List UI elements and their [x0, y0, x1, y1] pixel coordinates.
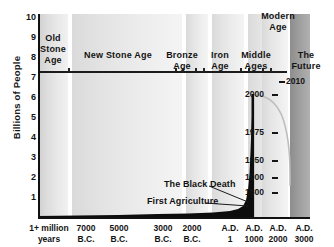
- era-label-line1: Modern: [261, 11, 295, 21]
- y-tick-1: 1: [22, 193, 36, 202]
- curve-fill: [38, 100, 254, 217]
- y-tick-5: 5: [22, 113, 36, 122]
- year-marker-1800: 1800: [245, 188, 264, 197]
- year-marker-1900: 1900: [245, 173, 264, 182]
- x-tick-line1: A.D.: [270, 223, 287, 233]
- era-boundary-tick-3: [182, 68, 184, 72]
- annotation-first-agriculture: First Agriculture: [147, 196, 218, 206]
- x-tick-line2: B.C.: [147, 234, 179, 245]
- x-tick-line1: 1+ million: [29, 223, 68, 233]
- era-boundary-tick-1: [68, 68, 70, 72]
- y-tick-7: 7: [22, 73, 36, 82]
- year-dash-1900: [272, 177, 278, 179]
- year-marker-2000: 2000: [245, 90, 264, 99]
- y-tick-2: 2: [22, 173, 36, 182]
- x-axis-line: [38, 217, 310, 219]
- x-tick-line2: B.C.: [176, 234, 208, 245]
- era-label-line3: Age: [44, 55, 62, 65]
- era-boundary-tick-4: [195, 68, 197, 72]
- x-tick-line2: 2000: [264, 234, 292, 245]
- era-label-line1: Bronze: [166, 50, 198, 60]
- era-boundary-tick-8: [262, 68, 264, 72]
- era-label-line2: Age: [211, 61, 229, 71]
- x-tick-line1: 3000: [154, 223, 173, 233]
- era-boundary-tick-5: [203, 68, 205, 72]
- x-tick-line2: B.C.: [70, 234, 102, 245]
- y-axis-tick-labels: 10 9 8 7 6 5 4 3 2 1: [16, 0, 36, 247]
- era-label-line1: Middle: [241, 50, 271, 60]
- era-label-iron-age: Iron Age: [204, 50, 236, 72]
- y-tick-8: 8: [22, 53, 36, 62]
- era-boundary-tick-9: [270, 68, 272, 72]
- year-dash-1800: [272, 192, 278, 194]
- population-growth-chart: Billions of People 10 9 8 7 6 5 4 3 2 1 …: [0, 0, 334, 247]
- year-dash-2010: [279, 81, 285, 83]
- x-tick-line2: B.C.: [103, 234, 135, 245]
- y-tick-3: 3: [22, 153, 36, 162]
- era-label-new-stone-age: New Stone Age: [62, 50, 174, 61]
- x-tick-line1: 2000: [183, 223, 202, 233]
- era-label-line1: Old: [45, 33, 61, 43]
- y-tick-6: 6: [22, 93, 36, 102]
- era-boundary-tick-7: [248, 68, 250, 72]
- x-tick-ad-2000: A.D. 2000: [264, 223, 292, 245]
- x-tick-line1: A.D.: [296, 223, 313, 233]
- era-label-line1: Iron: [211, 50, 229, 60]
- x-tick-line1: A.D.: [222, 223, 239, 233]
- x-tick-5000-bc: 5000 B.C.: [103, 223, 135, 245]
- y-axis-line: [38, 14, 40, 219]
- year-marker-1950: 1950: [245, 156, 264, 165]
- year-marker-1975: 1975: [245, 128, 264, 137]
- y-tick-10: 10: [22, 13, 36, 22]
- x-tick-3000-bc: 3000 B.C.: [147, 223, 179, 245]
- y-tick-4: 4: [22, 133, 36, 142]
- x-tick-2000-bc: 2000 B.C.: [176, 223, 208, 245]
- era-label-line2: Age: [269, 22, 287, 32]
- era-boundary-tick-6: [240, 68, 242, 72]
- annotation-black-death: The Black Death: [164, 179, 236, 189]
- year-dash-1950: [272, 160, 278, 162]
- x-tick-line1: 5000: [110, 223, 129, 233]
- era-boundary-tick-2: [175, 68, 177, 72]
- x-tick-7000-bc: 7000 B.C.: [70, 223, 102, 245]
- era-label-modern-age: Modern Age: [254, 11, 302, 33]
- year-marker-2010: 2010: [286, 77, 305, 86]
- era-divider-line: [40, 71, 287, 73]
- era-label-line2: Future: [291, 61, 320, 71]
- era-label-line1: The: [298, 50, 315, 60]
- y-tick-9: 9: [22, 33, 36, 42]
- year-dash-2000: [272, 94, 278, 96]
- x-tick-line1: A.D.: [246, 223, 263, 233]
- era-label-the-future: The Future: [288, 50, 324, 72]
- x-tick-ad-3000: A.D. 3000: [290, 223, 318, 245]
- x-tick-line1: 7000: [77, 223, 96, 233]
- year-dash-1975: [272, 132, 278, 134]
- x-tick-line2: 3000: [290, 234, 318, 245]
